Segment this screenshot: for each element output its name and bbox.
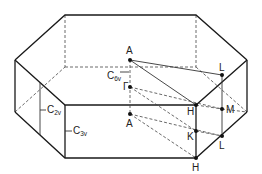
label-h-top: H — [187, 106, 194, 117]
label-l-top: L — [219, 62, 225, 73]
label-c6v: C6v — [107, 70, 122, 82]
label-a-bottom: A — [126, 118, 133, 129]
label-m: M — [226, 104, 234, 115]
hexagonal-prism-diagram: A Γ A H K H L M L C6v C2v C3v — [0, 0, 262, 174]
label-k: K — [187, 131, 194, 142]
label-c2v: C2v — [47, 104, 62, 116]
label-l-bottom: L — [219, 140, 225, 151]
label-gamma: Γ — [123, 81, 129, 92]
label-c3v: C3v — [73, 125, 88, 137]
label-a-top: A — [126, 45, 133, 56]
label-h-bottom: H — [192, 162, 199, 173]
